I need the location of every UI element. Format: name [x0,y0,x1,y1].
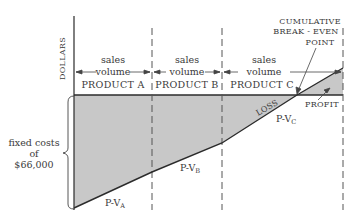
segment-c-sales: sales [252,54,276,65]
break-even-line3: POINT [306,38,335,47]
segment-a-volume: volume [95,66,131,77]
fixed-costs-line1: fixed costs [8,137,59,148]
pv-b-label: P-VB [180,162,200,175]
break-even-line2: BREAK - EVEN [273,27,338,36]
segment-c-product: PRODUCT C [230,79,294,90]
pv-a-label: P-VA [105,197,125,210]
segment-b-sales: sales [175,54,199,65]
segment-b-product: PRODUCT B [155,79,218,90]
pv-c-label: P-VC [276,113,296,126]
fixed-costs-line2: of [29,148,40,159]
segment-c-volume: volume [246,66,282,77]
cumulative-pv-diagram: DOLLARS sales volume PRODUCT A sales vol… [0,0,356,216]
segment-a-sales: sales [101,54,125,65]
y-axis-label: DOLLARS [58,37,67,80]
break-even-line1: CUMULATIVE [279,17,341,26]
fixed-costs-line3: $66,000 [14,159,53,170]
segment-b-volume: volume [169,66,205,77]
profit-label: PROFIT [305,100,339,109]
fixed-costs-brace [63,96,74,209]
segment-a-product: PRODUCT A [81,79,144,90]
